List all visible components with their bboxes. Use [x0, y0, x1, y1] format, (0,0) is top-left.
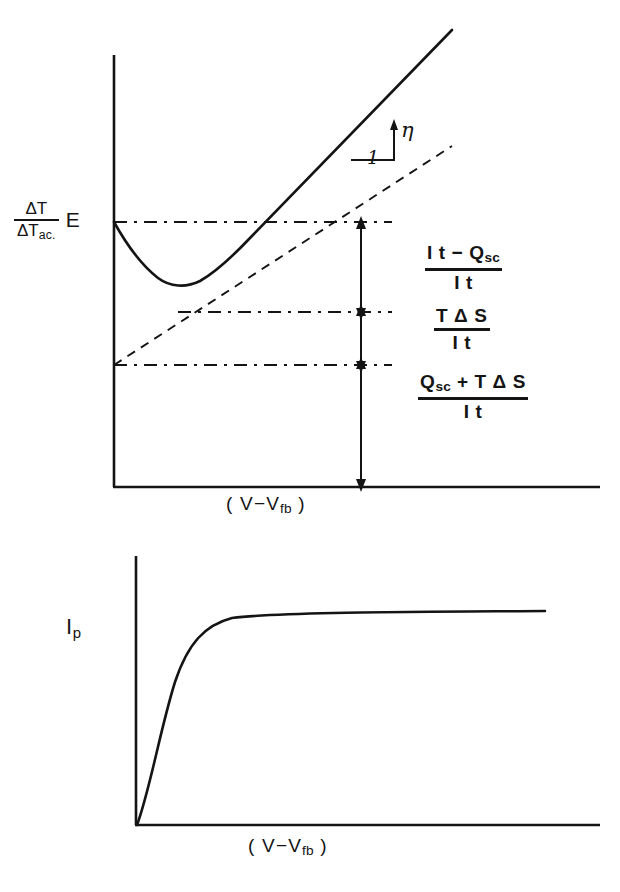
lower-y-axis-label: Ip: [66, 616, 81, 641]
x-label-subscript: fb: [280, 501, 292, 516]
equation-3-denominator: I t: [462, 400, 485, 422]
upper-y-axis-label: ΔT ΔTac. E: [14, 200, 80, 242]
lower-x-label-open: ( V−V: [248, 835, 302, 856]
slope-one-label: 1: [367, 148, 379, 167]
equation-3-numerator: Qsc + T Δ S: [418, 372, 528, 397]
delta-t-ratio-fraction: ΔT ΔTac.: [14, 200, 59, 242]
fraction-numerator: ΔT: [22, 200, 50, 219]
scientific-figure: ΔT ΔTac. E η 1 ( V−Vfb ) I t − Qsc I t T…: [0, 0, 620, 892]
measurement-arrow-head-bottom: [356, 479, 366, 492]
equation-2-denominator: I t: [450, 331, 473, 353]
lower-x-axis-label: ( V−Vfb ): [248, 836, 328, 858]
upper-x-axis-label: ( V−Vfb ): [226, 494, 306, 516]
fraction-denominator: ΔTac.: [14, 221, 59, 242]
equation-1-numerator-pre: I t − Q: [427, 242, 485, 263]
lower-x-label-subscript: fb: [302, 843, 314, 858]
equation-1-numerator: I t − Qsc: [425, 243, 502, 268]
equation-3-numerator-pre: Q: [420, 371, 435, 392]
denominator-main: ΔT: [17, 221, 39, 240]
equation-1-denominator: I t: [452, 271, 475, 293]
equation-combined-losses: Qsc + T Δ S I t: [418, 372, 528, 422]
figure-canvas: [0, 0, 620, 892]
x-label-open: ( V−V: [226, 493, 280, 514]
asymptote-dashed-line: [114, 146, 452, 365]
lower-y-label-main: I: [66, 614, 73, 639]
upper-chart-group: [113, 30, 600, 492]
lower-chart-group: [135, 556, 600, 825]
efficiency-symbol: E: [66, 209, 80, 230]
lower-y-label-subscript: p: [73, 624, 82, 641]
equation-3-numerator-post: + T Δ S: [451, 371, 526, 392]
slope-rise-arrowhead: [390, 119, 398, 130]
lower-photocurrent-curve: [137, 611, 545, 825]
equation-2-numerator: T Δ S: [434, 306, 490, 328]
x-label-close: ): [292, 493, 306, 514]
upper-measured-curve: [114, 30, 452, 286]
equation-charge-efficiency: I t − Qsc I t: [425, 243, 502, 293]
denominator-subscript: ac.: [39, 228, 56, 242]
lower-x-label-close: ): [314, 835, 328, 856]
equation-entropy-term: T Δ S I t: [434, 306, 490, 353]
slope-eta-label: η: [401, 120, 414, 141]
equation-1-numerator-subscript: sc: [485, 250, 501, 265]
equation-3-numerator-subscript: sc: [435, 379, 451, 394]
